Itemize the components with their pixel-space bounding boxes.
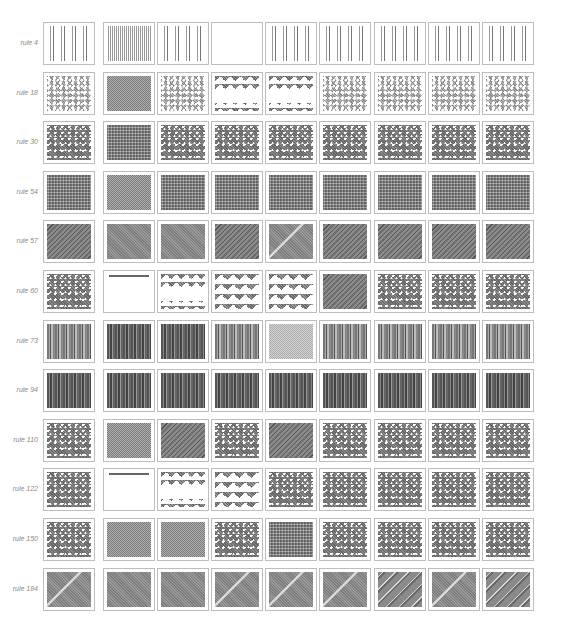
variant-panel <box>265 320 317 363</box>
automaton-pattern <box>161 76 205 111</box>
automaton-pattern <box>486 26 530 61</box>
automaton-pattern <box>432 175 476 210</box>
automaton-pattern <box>378 423 422 458</box>
automaton-pattern <box>47 274 91 309</box>
variant-panel <box>265 72 317 115</box>
variant-panel <box>428 369 480 412</box>
variant-panel <box>265 270 317 313</box>
automaton-pattern <box>432 224 476 259</box>
automaton-pattern <box>486 224 530 259</box>
automaton-pattern <box>215 224 259 259</box>
column-caption: (g) <box>428 594 480 601</box>
automaton-pattern <box>107 324 151 359</box>
automaton-pattern <box>378 572 422 607</box>
variant-panel <box>319 518 371 561</box>
automaton-pattern <box>378 26 422 61</box>
variant-panel <box>211 568 263 611</box>
automaton-pattern <box>432 76 476 111</box>
automaton-pattern <box>47 423 91 458</box>
automaton-pattern <box>269 76 313 111</box>
automaton-pattern <box>378 125 422 160</box>
row-label: rule 54 <box>0 188 38 195</box>
reference-panel <box>43 468 95 511</box>
automaton-pattern <box>47 175 91 210</box>
automaton-pattern <box>432 324 476 359</box>
variant-panel <box>482 419 534 462</box>
automaton-pattern <box>486 572 530 607</box>
automaton-pattern <box>432 472 476 507</box>
column-caption: (d) <box>265 594 317 601</box>
variant-panel <box>211 518 263 561</box>
automaton-pattern <box>107 423 151 458</box>
column-caption: (c) <box>211 594 263 601</box>
automaton-pattern <box>432 522 476 557</box>
variant-panel <box>265 22 317 65</box>
automaton-pattern <box>47 572 91 607</box>
reference-panel <box>43 220 95 263</box>
variant-panel <box>482 72 534 115</box>
automaton-pattern <box>269 324 313 359</box>
automaton-pattern <box>161 423 205 458</box>
automaton-pattern <box>269 175 313 210</box>
variant-panel <box>211 369 263 412</box>
automaton-pattern <box>432 572 476 607</box>
automaton-pattern <box>215 373 259 408</box>
reference-panel <box>43 72 95 115</box>
automaton-pattern <box>378 324 422 359</box>
row-label: rule 110 <box>0 436 38 443</box>
automaton-pattern <box>486 175 530 210</box>
variant-panel <box>157 121 209 164</box>
variant-panel <box>374 72 426 115</box>
reference-panel <box>43 320 95 363</box>
variant-panel <box>319 369 371 412</box>
variant-panel <box>265 369 317 412</box>
automaton-pattern <box>323 472 367 507</box>
automaton-pattern <box>161 324 205 359</box>
automaton-pattern <box>323 373 367 408</box>
automaton-pattern <box>215 125 259 160</box>
automaton-pattern <box>323 125 367 160</box>
automaton-pattern <box>486 423 530 458</box>
variant-panel <box>374 568 426 611</box>
variant-panel <box>319 72 371 115</box>
variant-panel <box>482 320 534 363</box>
variant-panel <box>157 369 209 412</box>
variant-panel <box>211 72 263 115</box>
variant-panel <box>103 121 155 164</box>
automaton-pattern <box>215 175 259 210</box>
row-label: rule 150 <box>0 535 38 542</box>
variant-panel <box>319 468 371 511</box>
automaton-pattern <box>215 423 259 458</box>
variant-panel <box>482 369 534 412</box>
automaton-pattern <box>378 274 422 309</box>
automaton-pattern <box>432 423 476 458</box>
row-label: rule 18 <box>0 89 38 96</box>
variant-panel <box>374 121 426 164</box>
variant-panel <box>482 270 534 313</box>
variant-panel <box>103 518 155 561</box>
automaton-pattern <box>107 76 151 111</box>
variant-panel <box>428 419 480 462</box>
automaton-pattern <box>47 26 91 61</box>
variant-panel <box>374 22 426 65</box>
variant-panel <box>482 518 534 561</box>
automaton-pattern <box>486 324 530 359</box>
column-caption: (b) <box>157 594 209 601</box>
row-label: rule 184 <box>0 585 38 592</box>
automaton-pattern <box>107 224 151 259</box>
automaton-pattern <box>323 324 367 359</box>
variant-panel <box>374 518 426 561</box>
automaton-pattern <box>161 522 205 557</box>
automaton-pattern <box>107 175 151 210</box>
automaton-pattern <box>107 125 151 160</box>
variant-panel <box>157 568 209 611</box>
automaton-pattern <box>107 572 151 607</box>
variant-panel <box>211 419 263 462</box>
row-label: rule 4 <box>0 39 38 46</box>
variant-panel <box>319 320 371 363</box>
automaton-pattern <box>161 472 205 507</box>
variant-panel <box>482 468 534 511</box>
variant-panel <box>103 468 155 511</box>
automaton-pattern <box>47 76 91 111</box>
variant-panel <box>428 220 480 263</box>
